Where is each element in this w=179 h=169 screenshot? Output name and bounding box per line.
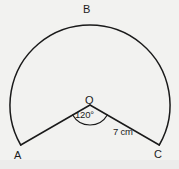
- radius-length-label: 7 cm: [113, 127, 133, 137]
- radius-oc: [90, 105, 159, 145]
- vertex-label-o: O: [85, 95, 94, 106]
- vertex-label-b: B: [83, 4, 90, 15]
- angle-measure-label: 120°: [75, 110, 94, 120]
- geometry-figure: B O A C 120° 7 cm: [0, 0, 179, 169]
- vertex-label-a: A: [14, 150, 21, 161]
- major-arc-abc: [10, 25, 170, 145]
- sector-drawing: [0, 0, 179, 169]
- vertex-label-c: C: [154, 149, 162, 160]
